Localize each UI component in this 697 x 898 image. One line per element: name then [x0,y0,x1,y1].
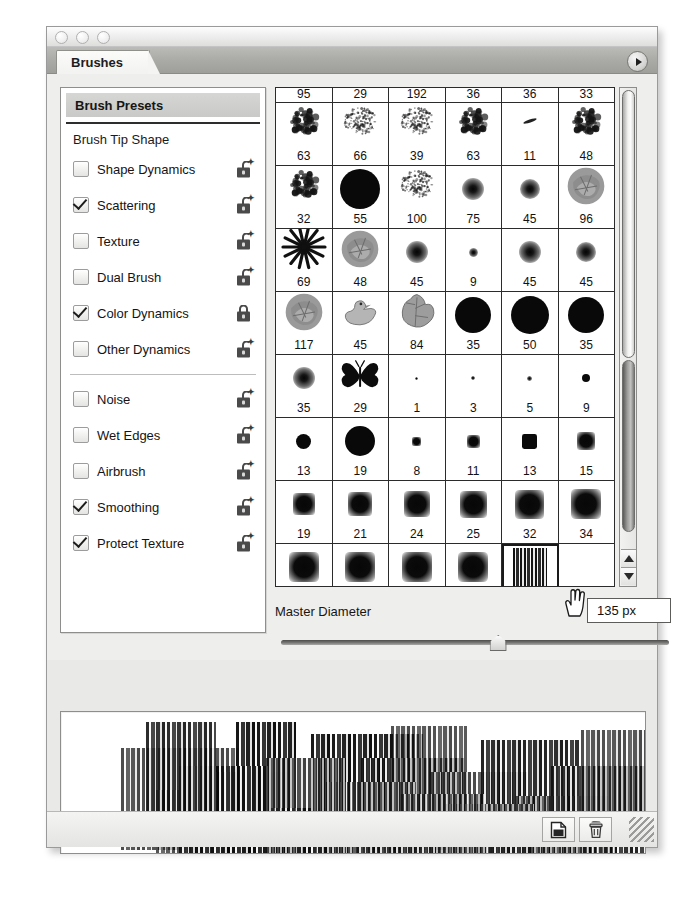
brush-preset-cell[interactable]: 48 [559,103,615,165]
locked-padlock-icon[interactable] [236,305,252,322]
sidebar-item-brush-tip-shape[interactable]: Brush Tip Shape [61,124,265,151]
brush-preset-cell[interactable]: 35 [446,292,503,354]
scrollbar-thumb[interactable] [622,360,635,532]
brush-preset-cell[interactable]: 66 [333,103,390,165]
sidebar-item-brush-presets[interactable]: Brush Presets [66,93,260,117]
unlocked-padlock-icon[interactable]: ✦ [236,161,252,178]
brush-preset-cell[interactable]: 45 [389,229,446,291]
brush-preset-cell[interactable]: 34 [559,481,615,543]
brush-preset-cell[interactable]: 39 [389,103,446,165]
unlocked-padlock-icon[interactable]: ✦ [236,535,252,552]
brush-preset-cell[interactable]: 32 [502,481,559,543]
unlocked-padlock-icon[interactable]: ✦ [236,391,252,408]
brush-preset-cell[interactable]: 95 [276,88,333,102]
brush-preset-cell[interactable]: 45 [559,229,615,291]
brush-preset-cell[interactable]: 63 [446,103,503,165]
brush-preset-cell[interactable]: 25 [446,481,503,543]
brush-preset-cell[interactable]: 55 [333,166,390,228]
sidebar-item-wet-edges[interactable]: Wet Edges✦ [61,417,265,453]
checkbox-unchecked-icon[interactable] [73,341,89,357]
checkbox-checked-icon[interactable] [73,197,89,213]
checkbox-unchecked-icon[interactable] [73,161,89,177]
checkbox-unchecked-icon[interactable] [73,233,89,249]
brush-preset-cell[interactable]: 135 [502,544,559,587]
sidebar-item-noise[interactable]: Noise✦ [61,381,265,417]
slider-handle[interactable] [490,635,507,651]
brush-preset-cell[interactable]: 69 [276,229,333,291]
sidebar-item-texture[interactable]: Texture✦ [61,223,265,259]
brush-preset-cell[interactable]: 192 [389,88,446,102]
brush-preset-cell[interactable]: 13 [502,418,559,480]
brush-preset-cell[interactable]: 5 [502,355,559,417]
sidebar-item-airbrush[interactable]: Airbrush✦ [61,453,265,489]
unlocked-padlock-icon[interactable]: ✦ [236,427,252,444]
zoom-button-icon[interactable] [97,31,110,44]
brush-preset-cell[interactable]: 1 [389,355,446,417]
sidebar-item-dual-brush[interactable]: Dual Brush✦ [61,259,265,295]
brush-preset-cell[interactable]: 58 [446,544,503,587]
brush-preset-cell[interactable]: 40 [276,544,333,587]
sidebar-item-smoothing[interactable]: Smoothing✦ [61,489,265,525]
checkbox-unchecked-icon[interactable] [73,391,89,407]
unlocked-padlock-icon[interactable]: ✦ [236,499,252,516]
checkbox-unchecked-icon[interactable] [73,269,89,285]
brush-preset-cell[interactable]: 75 [446,166,503,228]
brush-preset-cell[interactable]: 36 [446,88,503,102]
checkbox-checked-icon[interactable] [73,535,89,551]
brush-grid-scrollbar[interactable] [619,87,637,587]
brush-preset-cell[interactable]: 11 [446,418,503,480]
master-diameter-input[interactable]: 135 px [587,598,671,623]
brush-preset-cell[interactable]: 13 [276,418,333,480]
brush-preset-cell[interactable]: 3 [446,355,503,417]
brush-preset-cell[interactable]: 52 [389,544,446,587]
sidebar-item-shape-dynamics[interactable]: Shape Dynamics✦ [61,151,265,187]
sidebar-item-scattering[interactable]: Scattering✦ [61,187,265,223]
brush-preset-cell[interactable]: 29 [333,88,390,102]
brush-preset-cell[interactable]: 33 [559,88,615,102]
brush-preset-cell[interactable]: 19 [276,481,333,543]
window-titlebar[interactable] [47,27,657,47]
brush-preset-cell[interactable]: 9 [559,355,615,417]
sidebar-item-other-dynamics[interactable]: Other Dynamics✦ [61,331,265,367]
unlocked-padlock-icon[interactable]: ✦ [236,341,252,358]
brush-preset-cell[interactable]: 35 [276,355,333,417]
brush-preset-cell[interactable]: 8 [389,418,446,480]
brush-preset-cell[interactable]: 35 [559,292,615,354]
minimize-button-icon[interactable] [76,31,89,44]
tab-brushes[interactable]: Brushes [56,50,150,74]
delete-brush-button[interactable] [579,817,612,842]
checkbox-checked-icon[interactable] [73,499,89,515]
brush-preset-cell[interactable]: 15 [559,418,615,480]
sidebar-item-protect-texture[interactable]: Protect Texture✦ [61,525,265,561]
unlocked-padlock-icon[interactable]: ✦ [236,463,252,480]
unlocked-padlock-icon[interactable]: ✦ [236,197,252,214]
brush-preset-cell[interactable]: 117 [276,292,333,354]
brush-preset-cell[interactable]: 48 [333,229,390,291]
brush-preset-cell[interactable]: 84 [389,292,446,354]
brush-preset-cell[interactable]: 29 [333,355,390,417]
scroll-up-button[interactable] [621,549,636,567]
brush-preset-cell[interactable]: 45 [502,229,559,291]
brush-preset-cell[interactable]: 21 [333,481,390,543]
brush-preset-cell[interactable]: 43 [333,544,390,587]
master-diameter-slider[interactable] [281,634,669,650]
brush-preset-cell[interactable]: 9 [446,229,503,291]
checkbox-checked-icon[interactable] [73,305,89,321]
brush-grid[interactable]: 9529192363633636639631148325510075459669… [275,87,615,587]
brush-preset-cell[interactable]: 24 [389,481,446,543]
brush-preset-cell[interactable]: 36 [502,88,559,102]
checkbox-unchecked-icon[interactable] [73,463,89,479]
panel-menu-button[interactable] [627,51,648,72]
scrollbar-track-upper[interactable] [622,90,635,358]
scroll-down-button[interactable] [621,567,636,585]
brush-preset-cell[interactable]: 96 [559,166,615,228]
brush-preset-cell[interactable]: 63 [276,103,333,165]
brush-preset-cell[interactable]: 45 [502,166,559,228]
brush-preset-cell[interactable]: 11 [502,103,559,165]
close-button-icon[interactable] [55,31,68,44]
brush-preset-cell[interactable]: 50 [502,292,559,354]
unlocked-padlock-icon[interactable]: ✦ [236,269,252,286]
brush-preset-cell[interactable]: 100 [389,166,446,228]
sidebar-item-color-dynamics[interactable]: Color Dynamics [61,295,265,331]
checkbox-unchecked-icon[interactable] [73,427,89,443]
